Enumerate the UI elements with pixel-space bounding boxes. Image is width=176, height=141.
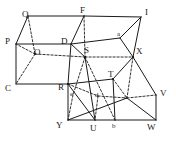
vertex-label-S: S — [84, 46, 89, 55]
vertex-label-Y: Y — [56, 121, 63, 130]
vertex-label-c: c — [124, 94, 127, 101]
vertex-label-a: a — [117, 31, 120, 38]
vertex-dot-X — [132, 56, 134, 58]
vertex-label-V: V — [160, 89, 167, 98]
edge-T-X — [113, 57, 133, 79]
edge-S-e — [73, 57, 85, 95]
vertex-label-e: e — [70, 91, 73, 98]
vertex-label-D: D — [61, 37, 68, 46]
edge-R-T — [68, 79, 113, 84]
vertex-label-R: R — [58, 83, 64, 92]
vertex-dots — [34, 53, 134, 85]
edge-a-X — [120, 38, 133, 57]
vertex-dot-S — [84, 56, 87, 59]
vertex-label-T: T — [108, 70, 114, 79]
vertex-label-U: U — [90, 124, 97, 133]
solid-edges — [16, 16, 156, 120]
vertex-label-b: b — [112, 123, 116, 130]
edge-R-D — [68, 44, 71, 84]
vertex-dot-R — [67, 83, 69, 85]
vertex-label-F: F — [80, 6, 85, 15]
vertex-label-C: C — [5, 84, 11, 93]
edge-b-T — [113, 79, 115, 120]
edge-O-C — [16, 54, 35, 84]
geometry-wireframe — [0, 0, 176, 141]
edge-Q-P — [16, 16, 28, 44]
vertex-label-d: d — [95, 92, 99, 99]
vertex-label-I: I — [145, 8, 148, 17]
vertex-label-X: X — [136, 47, 143, 56]
vertex-label-W: W — [147, 123, 156, 132]
vertex-label-Q: Q — [22, 10, 29, 19]
vertex-label-P: P — [5, 37, 10, 46]
edge-c-V — [127, 95, 156, 98]
edge-e-Y — [68, 95, 73, 120]
edge-d-c — [98, 96, 127, 98]
vertex-label-O: O — [34, 48, 41, 57]
edge-F-I — [84, 16, 141, 17]
edge-d-U — [95, 96, 98, 120]
edge-D-F — [71, 16, 84, 44]
edge-D-S — [71, 44, 85, 57]
edge-O-P — [16, 44, 35, 54]
geometry-figure: Q F I P O D S X C R T V Y U W a b c d e — [0, 0, 176, 141]
edge-D-a — [71, 38, 120, 44]
edge-O-S — [35, 54, 85, 57]
edge-W-c — [127, 98, 156, 120]
edge-V-X — [133, 57, 156, 95]
